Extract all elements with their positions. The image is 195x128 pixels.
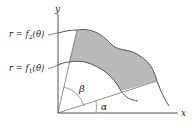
label-f2-rhs: (θ) <box>33 29 45 39</box>
label-f1: r = f1(θ) <box>9 63 44 74</box>
label-f1-rhs: (θ) <box>33 63 45 73</box>
label-f2: r = f2(θ) <box>9 29 44 40</box>
polar-area-diagram: y x r = f2(θ) r = f1(θ) β α <box>0 0 195 128</box>
angle-beta-label: β <box>78 83 85 94</box>
leader-f2 <box>48 33 58 35</box>
x-axis-label: x <box>181 108 186 118</box>
angle-alpha-label: α <box>101 102 107 112</box>
ray-beta <box>58 30 77 113</box>
label-f2-lhs: r = f <box>9 29 31 39</box>
y-axis-label: y <box>54 4 61 14</box>
leader-f1 <box>48 65 58 69</box>
shaded-region <box>69 30 157 91</box>
ray-alpha <box>58 81 157 113</box>
label-f1-lhs: r = f <box>9 63 31 73</box>
